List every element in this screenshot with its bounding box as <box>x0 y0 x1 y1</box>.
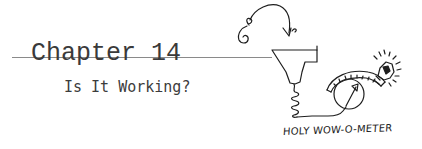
wire-icon <box>297 107 346 117</box>
curly-arrow-icon <box>238 5 296 43</box>
chapter-header: Chapter 14 Is It Working? <box>0 0 422 149</box>
light-bulb-icon <box>374 50 401 86</box>
funnel-icon <box>272 46 317 84</box>
spring-coil-icon <box>292 84 299 117</box>
